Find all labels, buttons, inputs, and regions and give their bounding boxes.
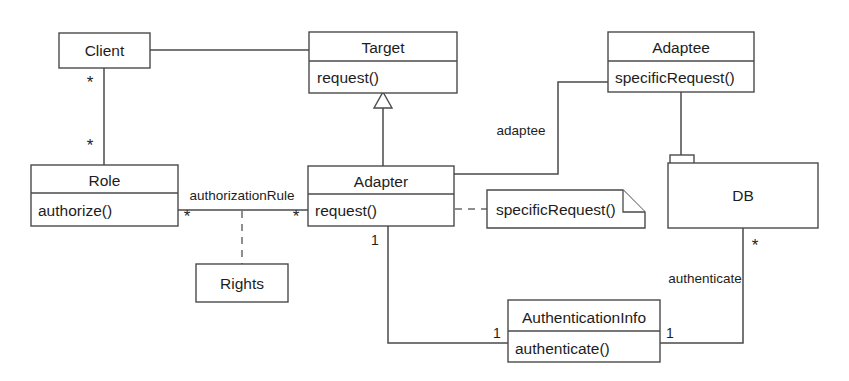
role-class-name: Role <box>89 172 121 189</box>
multiplicity-adapter-bottom: 1 <box>371 232 379 248</box>
uml-class-diagram: Client Target request() Adaptee specific… <box>0 0 849 381</box>
class-box-role[interactable]: Role authorize() <box>31 165 178 226</box>
label-adaptee: adaptee <box>497 123 546 138</box>
note-text: specificRequest() <box>496 201 616 218</box>
multiplicity-authinfo-right: 1 <box>666 325 674 341</box>
multiplicity-role-assoc-end: * <box>184 207 191 226</box>
target-operation-request: request() <box>317 69 379 86</box>
multiplicity-role-end: * <box>87 136 94 155</box>
role-operation-authorize: authorize() <box>38 202 112 219</box>
class-box-adaptee[interactable]: Adaptee specificRequest() <box>608 32 754 92</box>
multiplicity-db-end: * <box>752 236 759 255</box>
generalization-triangle-icon <box>374 92 392 108</box>
multiplicity-client-end: * <box>87 73 94 92</box>
multiplicity-authinfo-left: 1 <box>493 325 501 341</box>
class-box-authentication-info[interactable]: AuthenticationInfo authenticate() <box>508 300 660 362</box>
class-box-target[interactable]: Target request() <box>309 32 457 93</box>
adaptee-operation-specific-request: specificRequest() <box>615 69 735 86</box>
label-authorization-rule: authorizationRule <box>189 188 294 203</box>
authinfo-operation-authenticate: authenticate() <box>515 340 610 357</box>
diagram-canvas: Client Target request() Adaptee specific… <box>0 0 849 381</box>
package-box-db[interactable]: DB <box>668 155 818 228</box>
adapter-class-name: Adapter <box>354 173 408 190</box>
adaptee-class-name: Adaptee <box>652 39 710 56</box>
label-authenticate: authenticate <box>668 271 742 286</box>
class-box-adapter[interactable]: Adapter request() <box>308 166 454 226</box>
connector-adapter-authinfo <box>388 226 508 343</box>
authinfo-class-name: AuthenticationInfo <box>522 309 646 326</box>
note-specific-request[interactable]: specificRequest() <box>487 190 645 228</box>
client-class-name: Client <box>85 42 125 59</box>
db-package-name: DB <box>732 187 754 204</box>
class-box-client[interactable]: Client <box>59 33 150 68</box>
class-box-rights[interactable]: Rights <box>196 264 288 302</box>
adapter-operation-request: request() <box>315 202 377 219</box>
rights-class-name: Rights <box>220 275 264 292</box>
target-class-name: Target <box>361 39 405 56</box>
multiplicity-adapter-assoc-end: * <box>293 207 300 226</box>
